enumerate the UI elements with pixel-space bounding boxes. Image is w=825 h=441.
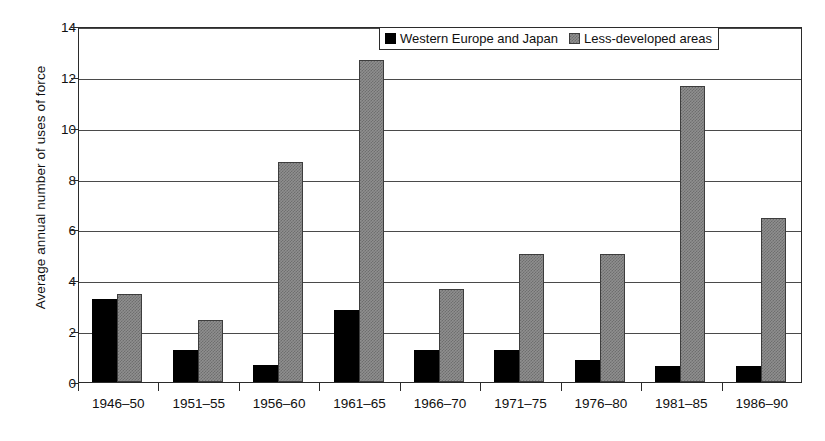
bar-less-developed-areas [359,60,384,382]
bar-western-europe-and-japan [575,360,600,382]
y-axis-tick-mark [71,27,78,28]
x-axis-tick-mark [641,383,642,391]
x-axis-tick-label: 1971–75 [494,396,547,411]
x-axis-tick-mark [158,383,159,391]
y-axis-tick-mark [71,332,78,333]
y-axis-tick-label: 2 [0,325,76,340]
bar-western-europe-and-japan [253,365,278,382]
bar-less-developed-areas [600,254,625,382]
x-axis-tick-mark [722,383,723,391]
legend-swatch-icon-gray [569,33,580,44]
x-axis-tick-label: 1961–65 [333,396,386,411]
y-axis-tick-mark [71,129,78,130]
bar-series-container [79,28,801,382]
x-axis-tick-mark [400,383,401,391]
y-axis-tick-label: 0 [0,376,76,391]
y-axis-tick-mark [71,383,78,384]
x-axis-tick-mark [239,383,240,391]
y-axis-tick-label: 10 [0,121,76,136]
x-axis-tick-mark [480,383,481,391]
bar-less-developed-areas [680,86,705,382]
y-axis-tick-mark [71,180,78,181]
chart-root: Average annual number of uses of force 0… [0,0,825,441]
x-axis-tick-mark [319,383,320,391]
x-axis-tick-label: 1966–70 [414,396,467,411]
y-axis-tick-label: 8 [0,172,76,187]
bar-western-europe-and-japan [334,310,359,382]
legend-label: Western Europe and Japan [400,31,558,46]
plot-area [78,27,802,383]
bar-western-europe-and-japan [494,350,519,382]
bar-less-developed-areas [198,320,223,382]
bar-western-europe-and-japan [655,366,680,382]
chart-legend: Western Europe and Japan Less-developed … [379,27,719,50]
bar-western-europe-and-japan [92,299,117,382]
y-axis-tick-label: 14 [0,20,76,35]
y-axis-tick-mark [71,281,78,282]
bar-western-europe-and-japan [736,366,761,382]
bar-less-developed-areas [761,218,786,382]
bar-less-developed-areas [439,289,464,382]
x-axis-tick-mark [561,383,562,391]
y-axis-title: Average annual number of uses of force [33,0,48,378]
x-axis-tick-label: 1956–60 [253,396,306,411]
legend-item-western-europe-and-japan: Western Europe and Japan [385,31,558,46]
bar-less-developed-areas [278,162,303,382]
x-axis-tick-label: 1981–85 [655,396,708,411]
x-axis-tick-mark [78,383,79,391]
x-axis-tick-label: 1946–50 [92,396,145,411]
legend-label: Less-developed areas [584,31,712,46]
x-axis-tick-label: 1951–55 [172,396,225,411]
x-axis-tick-label: 1976–80 [575,396,628,411]
y-axis-tick-label: 4 [0,274,76,289]
y-axis-tick-label: 12 [0,70,76,85]
y-axis-tick-mark [71,78,78,79]
bar-western-europe-and-japan [414,350,439,382]
bar-less-developed-areas [117,294,142,382]
bar-less-developed-areas [519,254,544,382]
y-axis-tick-mark [71,230,78,231]
legend-item-less-developed-areas: Less-developed areas [569,31,712,46]
y-axis-tick-label: 6 [0,223,76,238]
x-axis-tick-label: 1986–90 [735,396,788,411]
legend-swatch-icon-black [385,33,396,44]
bar-western-europe-and-japan [173,350,198,382]
